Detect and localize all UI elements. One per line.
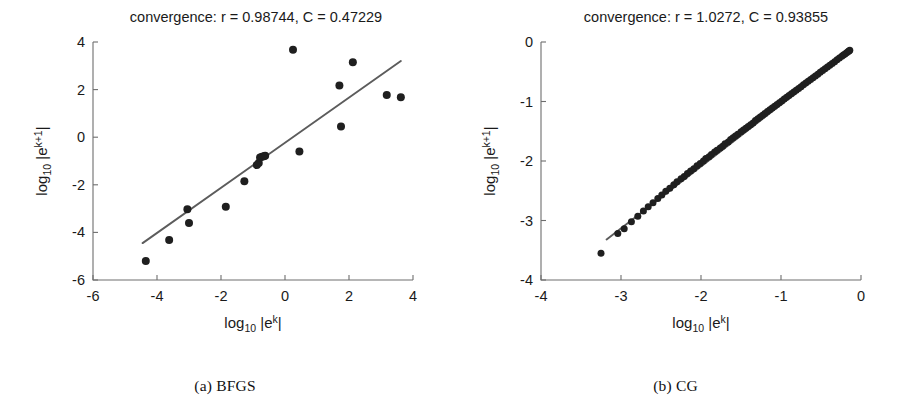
- panel-bfgs: convergence: r = 0.98744, C = 0.47229-6-…: [0, 0, 450, 411]
- data-point: [383, 91, 391, 99]
- y-tick-label: -2: [72, 177, 85, 193]
- x-tick-label: 2: [345, 288, 353, 304]
- x-axis-title-body: |e: [704, 314, 720, 331]
- x-tick-label: -3: [615, 288, 628, 304]
- regression-fit-line: [143, 61, 401, 243]
- panel-cg: convergence: r = 1.0272, C = 0.93855-4-3…: [450, 0, 901, 411]
- y-tick-label: -3: [520, 213, 533, 229]
- x-axis-title: log10 |ek|: [672, 313, 729, 334]
- y-axis-title-body: |e: [33, 148, 50, 164]
- y-axis-title-sup: k+1: [480, 130, 492, 147]
- y-axis-title-sub: 10: [41, 164, 53, 176]
- x-tick-label: -4: [151, 288, 164, 304]
- y-tick-label: 0: [77, 129, 85, 145]
- x-axis-title: log10 |ek|: [224, 313, 281, 334]
- data-point: [289, 46, 297, 54]
- plot-cg: convergence: r = 1.0272, C = 0.93855-4-3…: [450, 0, 901, 340]
- data-point: [335, 82, 343, 90]
- figure-container: convergence: r = 0.98744, C = 0.47229-6-…: [0, 0, 901, 411]
- data-point: [185, 219, 193, 227]
- y-axis-title: log10 |ek+1|: [32, 126, 53, 195]
- y-tick-label: 0: [525, 34, 533, 50]
- plot-title: convergence: r = 0.98744, C = 0.47229: [130, 9, 382, 25]
- y-axis-title-body: |e: [481, 148, 498, 164]
- y-axis-title: log10 |ek+1|: [480, 126, 501, 195]
- y-axis-title-base: log: [33, 176, 50, 196]
- data-point: [295, 147, 303, 155]
- y-tick-label: -2: [520, 153, 533, 169]
- plot-bfgs: convergence: r = 0.98744, C = 0.47229-6-…: [0, 0, 450, 340]
- x-tick-label: 4: [409, 288, 417, 304]
- x-axis-title-body: |e: [256, 314, 272, 331]
- x-tick-label: -2: [215, 288, 228, 304]
- y-axis-title-sub: 10: [489, 164, 501, 176]
- x-tick-label: -1: [775, 288, 788, 304]
- plot-title: convergence: r = 1.0272, C = 0.93855: [584, 9, 828, 25]
- x-tick-label: -6: [87, 288, 100, 304]
- x-axis-title-base: log: [224, 314, 244, 331]
- y-tick-label: -4: [72, 224, 85, 240]
- data-point: [165, 236, 173, 244]
- data-point: [598, 250, 605, 257]
- y-tick-label: 4: [77, 34, 85, 50]
- data-point: [634, 213, 641, 220]
- data-point: [846, 47, 853, 54]
- axis-spine: [93, 42, 413, 280]
- x-tick-label: -2: [695, 288, 708, 304]
- x-tick-label: 0: [857, 288, 865, 304]
- caption-cg: (b) CG: [450, 377, 901, 395]
- data-point: [397, 93, 405, 101]
- y-axis-title-tail: |: [33, 126, 50, 130]
- x-tick-label: -4: [535, 288, 548, 304]
- x-axis-title-base: log: [672, 314, 692, 331]
- x-axis-title-tail: |: [278, 314, 282, 331]
- x-axis-title-tail: |: [726, 314, 730, 331]
- data-point: [337, 122, 345, 130]
- y-axis-title-sup: k+1: [32, 130, 44, 147]
- y-tick-label: -6: [72, 272, 85, 288]
- data-point: [240, 177, 248, 185]
- data-point: [621, 225, 628, 232]
- y-axis-title-base: log: [481, 176, 498, 196]
- x-axis-title-sub: 10: [692, 322, 704, 334]
- data-point: [183, 205, 191, 213]
- x-tick-label: 0: [281, 288, 289, 304]
- data-point: [261, 152, 269, 160]
- data-point: [222, 203, 230, 211]
- data-point: [142, 257, 150, 265]
- data-point: [628, 218, 635, 225]
- data-point: [349, 58, 357, 66]
- y-tick-label: -1: [520, 94, 533, 110]
- caption-bfgs: (a) BFGS: [0, 377, 450, 395]
- y-axis-title-tail: |: [481, 126, 498, 130]
- y-tick-label: -4: [520, 272, 533, 288]
- data-point: [614, 230, 621, 237]
- y-tick-label: 2: [77, 82, 85, 98]
- x-axis-title-sub: 10: [244, 322, 256, 334]
